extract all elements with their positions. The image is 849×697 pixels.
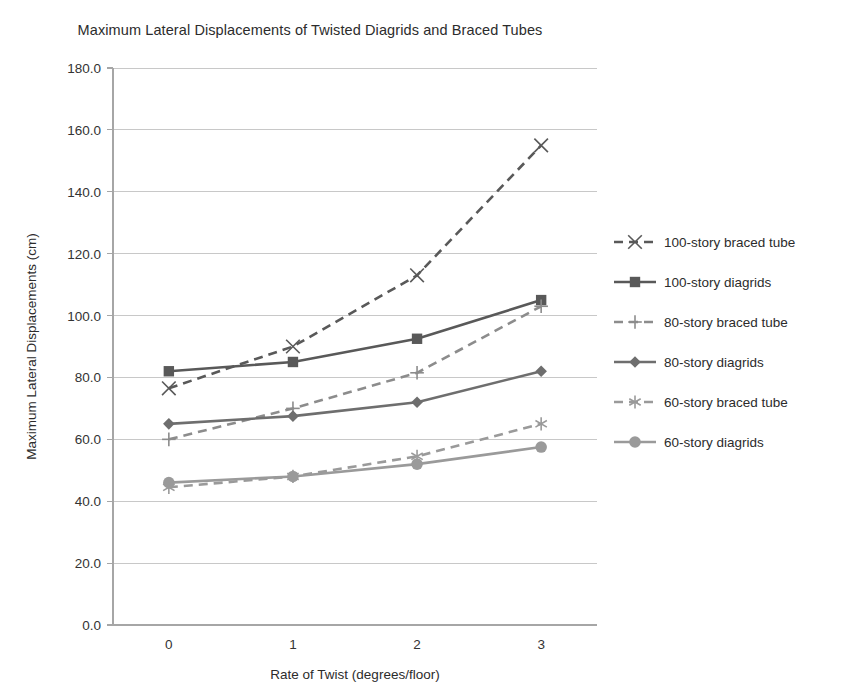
y-tick-label-40.0: 40.0 — [75, 494, 101, 509]
legend-item-0[interactable]: 100-story braced tube — [613, 222, 849, 262]
marker-circle — [629, 436, 641, 448]
marker-plus — [162, 433, 176, 447]
marker-diamond — [411, 396, 423, 408]
x-axis-title: Rate of Twist (degrees/floor) — [270, 667, 439, 682]
legend-swatch-x-icon — [613, 234, 657, 250]
marker-diamond-shape — [535, 365, 547, 377]
marker-diamond — [629, 356, 641, 368]
legend-label-2: 80-story braced tube — [664, 315, 788, 330]
y-tick-label-80.0: 80.0 — [75, 370, 101, 385]
chart-legend: 100-story braced tube100-story diagrids8… — [613, 222, 849, 462]
marker-circle — [287, 471, 299, 483]
marker-x — [286, 340, 300, 354]
marker-diamond — [287, 410, 299, 422]
marker-square-shape — [412, 334, 422, 344]
legend-item-5[interactable]: 60-story diagrids — [613, 422, 849, 462]
legend-label-5: 60-story diagrids — [664, 435, 764, 450]
marker-x — [534, 139, 548, 153]
y-axis-title: Maximum Lateral Displacements (cm) — [24, 233, 39, 460]
legend-item-1[interactable]: 100-story diagrids — [613, 262, 849, 302]
legend-swatch-plus-icon — [613, 314, 657, 330]
y-tick-label-160.0: 160.0 — [67, 123, 101, 138]
marker-square — [288, 357, 298, 367]
y-tick-label-120.0: 120.0 — [67, 247, 101, 262]
y-tick-label-180.0: 180.0 — [67, 61, 101, 76]
marker-circle — [163, 477, 175, 489]
legend-label-3: 80-story diagrids — [664, 355, 764, 370]
legend-item-4[interactable]: 60-story braced tube — [613, 382, 849, 422]
chart-figure: Maximum Lateral Displacements of Twisted… — [0, 0, 849, 697]
marker-circle-shape — [411, 458, 423, 470]
marker-diamond-shape — [163, 418, 175, 430]
marker-asterisk — [535, 417, 546, 430]
legend-swatch-circle-icon — [613, 434, 657, 450]
x-tick-label-2: 2 — [413, 637, 421, 652]
marker-circle — [535, 441, 547, 453]
marker-x — [162, 381, 176, 395]
y-tick-label-100.0: 100.0 — [67, 309, 101, 324]
legend-label-0: 100-story braced tube — [664, 235, 795, 250]
y-tick-label-0.0: 0.0 — [82, 618, 101, 633]
marker-diamond — [163, 418, 175, 430]
marker-square — [164, 366, 174, 376]
marker-square-shape — [164, 366, 174, 376]
x-tick-label-0: 0 — [165, 637, 173, 652]
legend-item-3[interactable]: 80-story diagrids — [613, 342, 849, 382]
marker-diamond-shape — [629, 356, 641, 368]
legend-label-1: 100-story diagrids — [664, 275, 771, 290]
series-line-5 — [169, 447, 541, 483]
marker-square — [630, 277, 640, 287]
marker-circle — [411, 458, 423, 470]
legend-item-2[interactable]: 80-story braced tube — [613, 302, 849, 342]
marker-diamond — [535, 365, 547, 377]
legend-label-4: 60-story braced tube — [664, 395, 788, 410]
marker-square-shape — [630, 277, 640, 287]
marker-circle-shape — [629, 436, 641, 448]
series-line-0 — [169, 145, 541, 388]
marker-circle-shape — [163, 477, 175, 489]
marker-circle-shape — [535, 441, 547, 453]
x-tick-label-1: 1 — [289, 637, 297, 652]
marker-x — [410, 269, 424, 283]
marker-square — [412, 334, 422, 344]
marker-diamond-shape — [411, 396, 423, 408]
y-tick-label-140.0: 140.0 — [67, 185, 101, 200]
legend-swatch-asterisk-icon — [613, 394, 657, 410]
legend-swatch-diamond-icon — [613, 354, 657, 370]
marker-square-shape — [288, 357, 298, 367]
series-line-3 — [169, 371, 541, 424]
legend-swatch-square-icon — [613, 274, 657, 290]
y-tick-label-20.0: 20.0 — [75, 556, 101, 571]
x-tick-label-3: 3 — [537, 637, 545, 652]
marker-plus — [628, 315, 642, 329]
marker-circle-shape — [287, 471, 299, 483]
y-tick-label-60.0: 60.0 — [75, 432, 101, 447]
marker-diamond-shape — [287, 410, 299, 422]
